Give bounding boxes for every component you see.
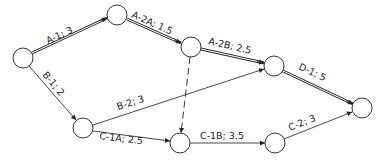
node-5 [352,98,372,118]
label-a1: A-1; 3 [44,24,74,46]
node-1 [13,48,33,68]
node-3 [181,37,201,57]
label-c2: C-2; 3 [287,112,317,133]
label-c1b: C-1B; 3.5 [200,130,244,141]
edge-b2 [93,69,264,125]
node-6 [73,118,93,138]
label-c1a: C-1A; 2.5 [99,130,144,146]
node-7 [170,133,190,153]
node-2 [107,5,127,25]
node-8 [265,133,285,153]
node-4 [264,56,284,76]
network-diagram: A-1; 3 A-2A; 1.5 A-2B; 2.5 D-1; 5 B-1; 2… [0,0,387,161]
edge-dummy [181,57,190,133]
network-diagram-svg: A-1; 3 A-2A; 1.5 A-2B; 2.5 D-1; 5 B-1; 2… [0,0,387,161]
